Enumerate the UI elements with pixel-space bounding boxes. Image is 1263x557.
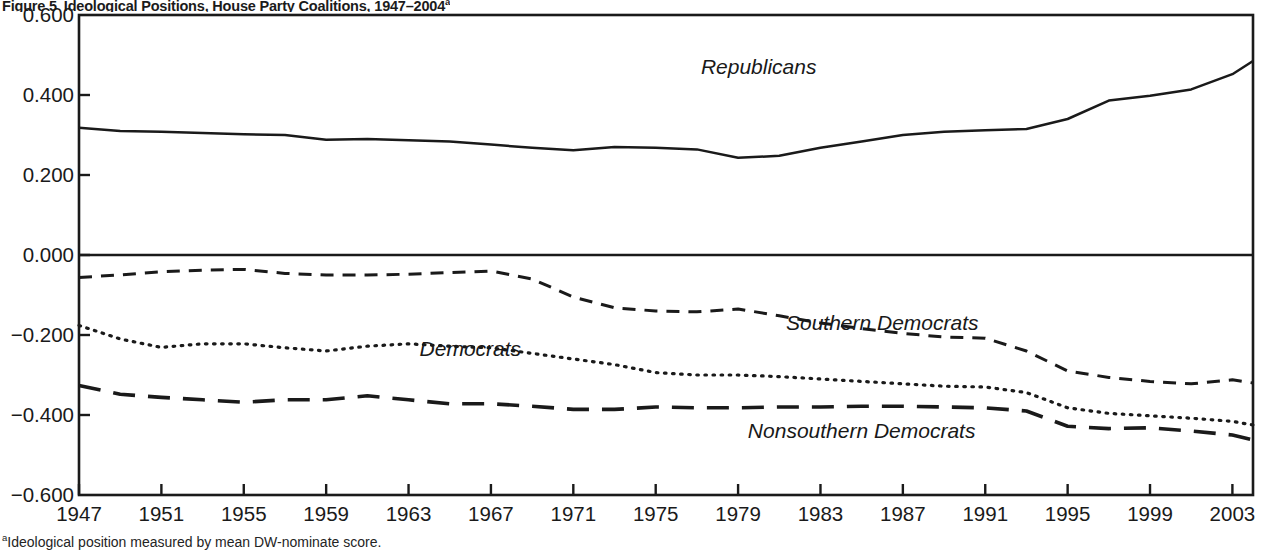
footnote-text: Ideological position measured by mean DW… — [7, 534, 381, 550]
x-axis-tick-label: 1983 — [780, 504, 860, 525]
series-label-nonsouthern-democrats: Nonsouthern Democrats — [748, 420, 976, 441]
series-label-democrats: Democrats — [420, 338, 522, 359]
x-axis-tick-label: 1959 — [286, 504, 366, 525]
series-line-democrats — [79, 325, 1253, 425]
x-axis-tick-label: 1987 — [863, 504, 943, 525]
x-axis-tick-label: 1995 — [1028, 504, 1108, 525]
x-axis-tick-label: 2003 — [1192, 504, 1263, 525]
x-axis-tick-label: 1967 — [451, 504, 531, 525]
x-axis-tick-label: 1975 — [616, 504, 696, 525]
series-label-southern-democrats: Southern Democrats — [786, 312, 979, 333]
series-label-republicans: Republicans — [701, 56, 817, 77]
x-axis-tick-label: 1951 — [121, 504, 201, 525]
x-axis-tick-label: 1979 — [698, 504, 778, 525]
x-axis-tick-labels: 1947195119551959196319671971197519791983… — [0, 504, 1263, 530]
figure-container: Figure 5Ideological Positions, House Par… — [0, 0, 1263, 557]
figure-title-footnote-marker: a — [445, 0, 450, 7]
series-line-republicans — [79, 61, 1253, 158]
y-axis-tick-label: 0.600 — [2, 5, 74, 26]
x-axis-tick-label: 1991 — [945, 504, 1025, 525]
y-axis-tick-labels: 0.6000.4000.2000.000−0.200−0.400−0.600 — [0, 8, 74, 528]
y-axis-tick-label: 0.400 — [2, 85, 74, 106]
x-axis-tick-label: 1963 — [369, 504, 449, 525]
chart-canvas — [0, 8, 1263, 528]
y-axis-tick-label: −0.200 — [2, 325, 74, 346]
x-axis-tick-label: 1947 — [39, 504, 119, 525]
series-line-southern-democrats — [79, 269, 1253, 383]
x-axis-tick-label: 1955 — [204, 504, 284, 525]
x-axis-tick-label: 1999 — [1110, 504, 1190, 525]
y-axis-tick-label: 0.200 — [2, 165, 74, 186]
x-axis-tick-label: 1971 — [533, 504, 613, 525]
series-line-nonsouthern-democrats — [79, 385, 1253, 439]
chart-plot-area: 0.6000.4000.2000.000−0.200−0.400−0.600 1… — [0, 8, 1263, 528]
y-axis-tick-label: 0.000 — [2, 245, 74, 266]
y-axis-tick-label: −0.400 — [2, 405, 74, 426]
figure-footnote: aIdeological position measured by mean D… — [2, 532, 381, 550]
